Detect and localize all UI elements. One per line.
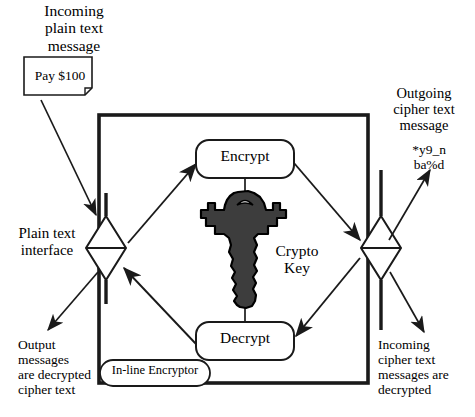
flow-note-to-plain-interface <box>41 100 96 215</box>
plain-note-text: Pay $100 <box>26 68 94 83</box>
flow-plain-interface-to-encrypt <box>128 164 196 243</box>
flow-incoming-cipher-to-interface <box>390 272 424 332</box>
cipher-text-sample: *y9_n ba%d <box>398 142 460 172</box>
flow-encrypt-to-cipher-interface <box>294 163 360 240</box>
plain-text-interface-diamond <box>86 193 126 304</box>
inline-encryptor-label: In-line Encryptor <box>104 363 206 377</box>
incoming-plain-text-label: Incoming plain text message <box>16 2 132 54</box>
encrypt-box-label: Encrypt <box>201 147 289 164</box>
crypto-key-label: Crypto Key <box>258 242 336 277</box>
incoming-cipher-messages-label: Incoming cipher text messages are decryp… <box>378 337 474 397</box>
flow-plain-interface-to-output <box>48 272 98 330</box>
flow-cipher-interface-to-outgoing <box>389 170 430 240</box>
diagram-canvas: Incoming plain text message Pay $100 Out… <box>0 0 475 417</box>
plain-text-interface-label: Plain text interface <box>6 225 88 259</box>
outgoing-cipher-text-label: Outgoing cipher text message <box>374 85 474 134</box>
decrypt-box-label: Decrypt <box>201 329 289 346</box>
flow-decrypt-to-plain-interface <box>124 268 196 344</box>
